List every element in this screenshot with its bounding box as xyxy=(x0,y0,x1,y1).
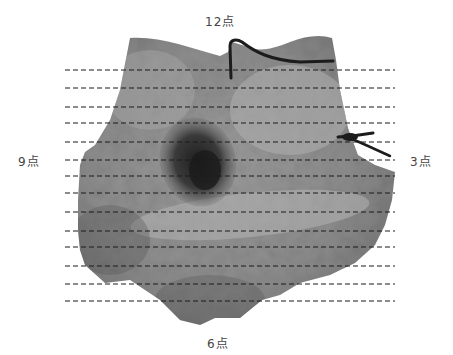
orientation-label-9-oclock: 9点 xyxy=(18,152,40,169)
lesion-core xyxy=(189,150,221,190)
tissue-specimen xyxy=(70,36,395,325)
specimen-canvas xyxy=(0,0,453,355)
tissue-light-region-left xyxy=(105,50,195,130)
tissue-dark-rim xyxy=(70,205,150,275)
tissue-dark-bottom xyxy=(155,275,265,325)
orientation-label-12-oclock: 12点 xyxy=(205,12,235,29)
specimen-figure: 12点 9点 3点 6点 xyxy=(0,0,453,355)
orientation-label-3-oclock: 3点 xyxy=(410,152,432,169)
orientation-label-6-oclock: 6点 xyxy=(207,334,229,351)
